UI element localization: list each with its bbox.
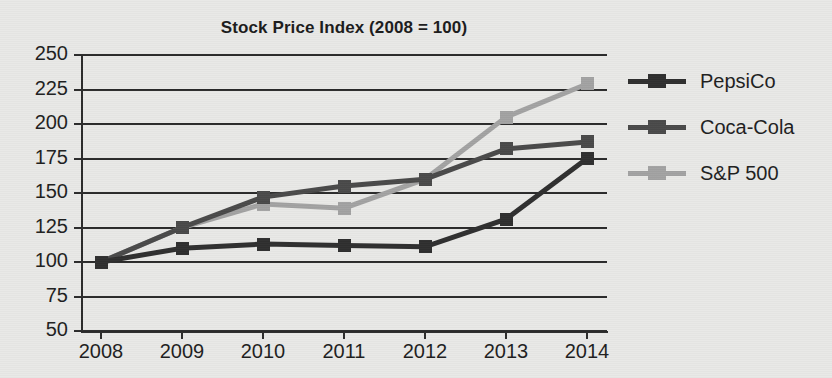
series-line — [101, 84, 587, 262]
legend-item-label: S&P 500 — [700, 162, 779, 185]
y-axis-tick-label: 100 — [12, 249, 68, 272]
data-point-marker — [419, 240, 432, 253]
y-axis-tick — [74, 296, 81, 298]
y-axis-tick-label: 200 — [12, 111, 68, 134]
data-point-marker — [500, 213, 513, 226]
x-axis-tick-label: 2012 — [380, 340, 470, 363]
legend-item-coca-cola[interactable]: Coca-Cola — [628, 104, 828, 150]
data-point-marker — [176, 221, 189, 234]
legend-swatch-icon — [628, 74, 686, 88]
x-axis-tick-label: 2013 — [461, 340, 551, 363]
x-axis-tick — [343, 331, 345, 339]
data-point-marker — [95, 256, 108, 269]
y-axis-tick — [74, 330, 81, 332]
x-axis-tick — [505, 331, 507, 339]
y-axis-tick-label: 75 — [12, 284, 68, 307]
legend-swatch-icon — [628, 166, 686, 180]
data-point-marker — [581, 135, 594, 148]
legend-item-pepsico[interactable]: PepsiCo — [628, 58, 828, 104]
x-axis-tick — [181, 331, 183, 339]
x-axis-tick-label: 2011 — [299, 340, 389, 363]
y-axis-tick — [74, 54, 81, 56]
y-axis-tick — [74, 227, 81, 229]
y-axis-tick-label: 250 — [12, 42, 68, 65]
data-point-marker — [500, 111, 513, 124]
series-lines — [81, 55, 607, 331]
y-axis-tick — [74, 158, 81, 160]
y-axis-tick — [74, 261, 81, 263]
legend-item-label: Coca-Cola — [700, 116, 794, 139]
x-axis-tick — [100, 331, 102, 339]
data-point-marker — [500, 142, 513, 155]
data-point-marker — [581, 152, 594, 165]
x-axis-tick — [262, 331, 264, 339]
legend-item-label: PepsiCo — [700, 70, 776, 93]
y-axis-tick — [74, 89, 81, 91]
y-axis-tick — [74, 123, 81, 125]
chart-title: Stock Price Index (2008 = 100) — [80, 18, 608, 38]
x-axis-tick-label: 2014 — [542, 340, 632, 363]
data-point-marker — [257, 238, 270, 251]
x-axis-tick-label: 2010 — [218, 340, 308, 363]
y-axis-tick — [74, 192, 81, 194]
data-point-marker — [419, 173, 432, 186]
legend-item-s-p-500[interactable]: S&P 500 — [628, 150, 828, 196]
y-axis-tick-label: 150 — [12, 180, 68, 203]
chart-figure: Stock Price Index (2008 = 100) 250225200… — [0, 0, 832, 378]
chart-legend: PepsiCoCoca-ColaS&P 500 — [628, 58, 828, 196]
y-axis-tick-label: 125 — [12, 215, 68, 238]
plot-area — [81, 55, 607, 331]
data-point-marker — [257, 191, 270, 204]
data-point-marker — [338, 202, 351, 215]
x-axis-tick — [424, 331, 426, 339]
x-axis-tick-label: 2009 — [137, 340, 227, 363]
y-axis-tick-label: 50 — [12, 318, 68, 341]
data-point-marker — [338, 239, 351, 252]
x-axis-tick-label: 2008 — [56, 340, 146, 363]
x-axis-tick — [586, 331, 588, 339]
legend-swatch-icon — [628, 120, 686, 134]
data-point-marker — [581, 77, 594, 90]
y-axis-tick-label: 175 — [12, 146, 68, 169]
data-point-marker — [338, 180, 351, 193]
data-point-marker — [176, 242, 189, 255]
y-axis-tick-label: 225 — [12, 77, 68, 100]
